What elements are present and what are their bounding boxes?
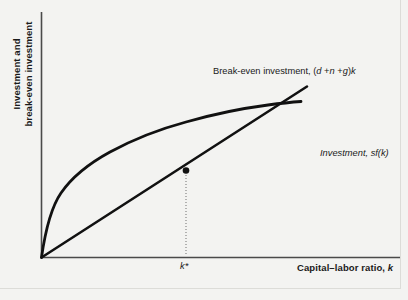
break-even-var-k: k xyxy=(351,66,356,76)
break-even-plus-n: + xyxy=(322,66,330,76)
y-axis-title-line1: Investment and xyxy=(11,38,22,109)
kstar-tick-label: k* xyxy=(180,261,188,271)
solow-growth-diagram: Investment and break-even investment Cap… xyxy=(0,0,408,300)
investment-sfk-curve xyxy=(42,102,302,258)
y-axis-title-line2: break-even investment xyxy=(23,21,34,126)
break-even-label-text: Break-even investment, xyxy=(213,66,313,76)
y-axis-title: Investment and break-even investment xyxy=(11,10,35,138)
steady-state-point-marker xyxy=(183,167,190,174)
break-even-plus-g: + xyxy=(335,66,343,76)
x-axis-title-text: Capital–labor ratio, xyxy=(297,262,388,273)
break-even-investment-label: Break-even investment, (d +n +g)k xyxy=(213,66,356,76)
investment-sfk-label: Investment, sf(k) xyxy=(320,148,389,158)
x-axis-title-variable: k xyxy=(388,262,393,273)
x-axis-title: Capital–labor ratio, k xyxy=(297,262,393,273)
